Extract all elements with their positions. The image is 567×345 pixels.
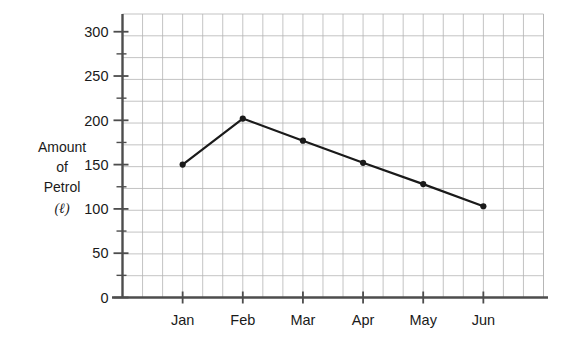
x-tick-label: Jan [171,312,194,328]
data-point-mar [300,138,306,144]
y-axis-unit-label: (ℓ) [54,201,69,217]
x-tick-label: Mar [290,312,315,328]
y-tick-label: 150 [84,157,108,173]
line-chart: 050100150200250300 JanFebMarAprMayJun Am… [0,0,567,345]
data-point-jan [180,162,186,168]
y-tick-label: 200 [84,113,108,129]
data-point-feb [240,115,246,121]
data-point-jun [480,203,486,209]
y-tick-label: 50 [92,245,108,261]
x-tick-label: May [410,312,438,328]
y-tick-label: 250 [84,68,108,84]
y-axis-title-line-2: of [56,159,68,175]
y-axis-title-line-3: Petrol [44,179,81,195]
x-tick-label: Apr [352,312,375,328]
y-axis-title-line-1: Amount [38,139,86,155]
y-tick-label: 300 [84,24,108,40]
x-tick-label: Feb [230,312,255,328]
data-point-may [420,181,426,187]
data-point-apr [360,160,366,166]
y-tick-label: 0 [100,290,108,306]
chart-canvas: 050100150200250300 JanFebMarAprMayJun Am… [0,0,567,345]
y-tick-label: 100 [84,201,108,217]
x-tick-label: Jun [472,312,495,328]
